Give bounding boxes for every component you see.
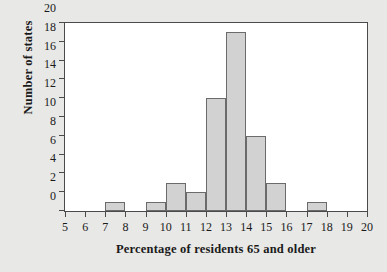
x-axis-tick-label: 13	[220, 220, 232, 235]
x-axis-tick	[367, 211, 368, 217]
x-axis-tick	[166, 211, 167, 217]
x-axis-tick-label: 16	[280, 220, 292, 235]
y-axis-tick-label: 0	[50, 189, 56, 204]
y-axis-tick-label: 16	[44, 38, 56, 53]
histogram-bar	[206, 98, 226, 211]
histogram-bar	[105, 202, 125, 211]
x-axis-tick-label: 10	[160, 220, 172, 235]
y-axis-tick	[59, 191, 65, 192]
bars-group	[65, 23, 367, 211]
x-axis-tick	[125, 211, 126, 217]
x-axis-title: Percentage of residents 65 and older	[64, 242, 368, 257]
y-axis-tick-label: 12	[44, 76, 56, 91]
y-axis-tick-label: 14	[44, 57, 56, 72]
x-axis-tick-label: 14	[240, 220, 252, 235]
x-axis-tick	[65, 211, 66, 217]
histogram-bar	[166, 183, 186, 211]
x-axis-tick-label: 15	[260, 220, 272, 235]
x-axis-tick-label: 17	[301, 220, 313, 235]
x-axis-tick-label: 18	[321, 220, 333, 235]
y-axis-tick-label: 10	[44, 95, 56, 110]
x-axis-tick	[246, 211, 247, 217]
x-axis-tick	[186, 211, 187, 217]
y-axis-tick	[59, 41, 65, 42]
y-axis-tick-label: 4	[50, 151, 56, 166]
y-axis-tick	[59, 60, 65, 61]
x-axis-tick-label: 5	[62, 220, 68, 235]
x-axis-tick-label: 11	[180, 220, 192, 235]
plot-area: 0246810121416182056789101112131415161718…	[64, 22, 368, 212]
x-axis-tick	[105, 211, 106, 217]
histogram-bar	[146, 202, 166, 211]
histogram-bar	[307, 202, 327, 211]
x-axis-tick	[347, 211, 348, 217]
x-axis-tick-label: 19	[341, 220, 353, 235]
x-axis-tick	[266, 211, 267, 217]
x-axis-tick	[85, 211, 86, 217]
x-axis-tick-label: 7	[102, 220, 108, 235]
x-axis-tick-label: 20	[361, 220, 373, 235]
y-axis-tick	[59, 22, 65, 23]
y-axis-tick-label: 8	[50, 113, 56, 128]
histogram-bar	[226, 32, 246, 211]
histogram-bar	[186, 192, 206, 211]
y-axis-tick	[59, 135, 65, 136]
x-axis-tick-label: 12	[200, 220, 212, 235]
y-axis-tick	[59, 154, 65, 155]
y-axis-tick-label: 18	[44, 19, 56, 34]
x-axis-tick-label: 6	[82, 220, 88, 235]
x-axis-tick-label: 9	[143, 220, 149, 235]
x-axis-tick	[146, 211, 147, 217]
y-axis-tick	[59, 78, 65, 79]
y-axis-tick	[59, 172, 65, 173]
histogram-bar	[266, 183, 286, 211]
x-axis-tick	[226, 211, 227, 217]
y-axis-tick-label: 2	[50, 170, 56, 185]
y-axis-tick-label: 6	[50, 132, 56, 147]
y-axis-title: Number of states	[21, 0, 36, 148]
histogram-figure: Number of states 02468101214161820567891…	[0, 0, 387, 272]
x-axis-tick	[307, 211, 308, 217]
x-axis-tick	[206, 211, 207, 217]
x-axis-tick-label: 8	[122, 220, 128, 235]
y-axis-tick	[59, 97, 65, 98]
x-axis-tick	[286, 211, 287, 217]
histogram-bar	[246, 136, 266, 211]
y-axis-tick	[59, 116, 65, 117]
y-axis-tick-label: 20	[44, 1, 56, 16]
x-axis-tick	[327, 211, 328, 217]
